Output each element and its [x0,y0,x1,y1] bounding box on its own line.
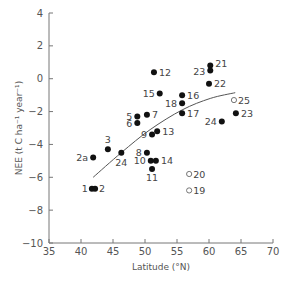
y-tick-label: −10 [22,238,43,249]
data-point-label: 19 [193,185,205,196]
y-tick-label: 2 [37,40,43,51]
data-point-2 [92,186,98,192]
data-point-15 [157,91,163,97]
data-point-24 [118,150,124,156]
data-point-24 [219,118,225,124]
data-point-20 [187,171,192,176]
y-tick-label: −2 [28,106,43,117]
x-axis-title: Latitude (°N) [132,262,190,272]
data-point-label: 6 [126,118,132,129]
data-point-12 [151,69,157,75]
data-point-13 [154,128,160,134]
data-point-7 [144,112,150,118]
data-point-9 [149,132,155,138]
data-point-label: 9 [141,129,147,140]
data-point-25 [231,97,236,102]
y-tick-label: 4 [37,8,43,19]
data-point-10 [148,158,154,164]
data-point-label: 23 [241,108,253,119]
data-points: 122a324567891011121314151617182123222324… [76,58,253,196]
data-point-label: 7 [152,109,158,120]
data-point-6 [134,120,140,126]
data-point-label: 12 [159,67,171,78]
x-tick-label: 35 [43,246,56,257]
data-point-label: 2a [76,152,88,163]
x-tick-label: 65 [235,246,248,257]
y-axis-title: NEE (t C ha⁻¹ year⁻¹) [14,81,24,175]
x-tick-label: 40 [75,246,88,257]
x-tick-label: 55 [171,246,184,257]
data-point-label: 15 [143,88,155,99]
data-point-18 [179,100,185,106]
data-point-label: 10 [134,155,146,166]
data-point-label: 24 [115,157,127,168]
data-point-label: 17 [187,108,199,119]
data-point-label: 23 [193,66,205,77]
data-point-label: 21 [215,58,227,69]
data-point-16 [179,92,185,98]
data-point-22 [206,81,212,87]
data-point-19 [187,188,192,193]
data-point-14 [153,158,159,164]
data-point-label: 24 [205,116,217,127]
y-tick-label: 0 [37,73,43,84]
data-point-label: 2 [99,183,105,194]
data-point-label: 13 [162,126,174,137]
y-tick-label: −6 [28,172,43,183]
data-point-5 [134,114,140,120]
data-point-label: 11 [146,172,158,183]
x-tick-label: 70 [267,246,280,257]
data-point-label: 3 [105,134,111,145]
data-point-23 [233,110,239,116]
data-point-label: 20 [193,169,205,180]
x-tick-label: 60 [203,246,216,257]
scatter-chart: 420−2−4−6−8−103540455055606570 122a32456… [0,0,294,287]
data-point-label: 25 [238,95,250,106]
y-tick-label: −8 [28,205,43,216]
data-point-label: 1 [82,183,88,194]
data-point-2a [90,155,96,161]
data-point-label: 22 [214,78,226,89]
data-point-label: 16 [187,90,199,101]
data-point-23 [207,68,213,74]
data-point-17 [179,110,185,116]
data-point-3 [105,146,111,152]
data-point-label: 18 [165,98,177,109]
data-point-label: 14 [161,155,173,166]
y-tick-label: −4 [28,139,43,150]
x-tick-label: 45 [107,246,120,257]
x-tick-label: 50 [139,246,152,257]
